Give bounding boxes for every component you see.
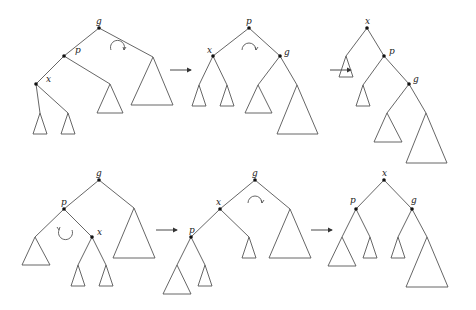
rotation-icon bbox=[58, 230, 72, 240]
node-label-x: x bbox=[46, 74, 51, 84]
splay-rotation-diagram: g p x p x g bbox=[0, 0, 476, 310]
node-label-x: x bbox=[207, 45, 212, 55]
node-label-g: g bbox=[411, 195, 417, 205]
node-label-x: x bbox=[382, 168, 387, 178]
node-label-p: p bbox=[189, 225, 195, 235]
tree-row1-stage1: g p x bbox=[33, 16, 173, 134]
node-label-x: x bbox=[216, 197, 221, 207]
rotation-icon bbox=[242, 43, 256, 50]
node-label-p: p bbox=[350, 195, 356, 205]
rotation-icon bbox=[111, 40, 125, 50]
node-label-g: g bbox=[96, 16, 102, 26]
node-label-x: x bbox=[97, 227, 102, 237]
tree-row2-stage3: x p g bbox=[328, 168, 448, 287]
node-label-p: p bbox=[389, 46, 395, 56]
node-label-g: g bbox=[96, 168, 102, 178]
node-label-g: g bbox=[413, 74, 419, 84]
node-label-g: g bbox=[284, 47, 290, 57]
tree-row2-stage2: g x p bbox=[163, 168, 311, 294]
node-label-x: x bbox=[365, 16, 370, 26]
tree-row2-stage1: g p x bbox=[22, 168, 155, 286]
tree-row1-stage2: p x g bbox=[192, 16, 318, 134]
node-label-p: p bbox=[75, 45, 81, 55]
node-label-p: p bbox=[61, 197, 67, 207]
node-label-p: p bbox=[246, 16, 252, 26]
tree-row1-stage3: x p g bbox=[339, 16, 447, 163]
rotation-icon bbox=[248, 196, 262, 203]
node-label-g: g bbox=[252, 168, 258, 178]
